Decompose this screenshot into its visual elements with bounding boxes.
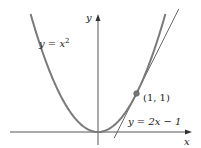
x-axis-label: x: [184, 137, 190, 147]
y-axis-label: y: [86, 13, 92, 23]
y-axis-arrow-icon: [96, 14, 101, 21]
curve-label: y = x2: [39, 38, 70, 49]
tangent-label: y = 2x − 1: [128, 117, 182, 127]
point-label: (1, 1): [143, 93, 170, 103]
x-axis-arrow-icon: [185, 130, 192, 135]
tangent-point-marker: [134, 91, 140, 97]
